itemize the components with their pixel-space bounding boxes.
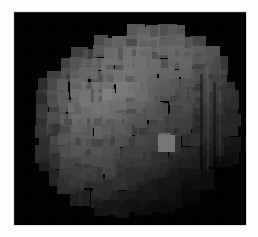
mosaic-block <box>191 178 206 190</box>
mosaic-block <box>79 177 93 188</box>
bright-spot-block <box>158 135 175 152</box>
mosaic-block <box>215 156 233 167</box>
pixel-mosaic-canvas <box>14 12 246 225</box>
mosaic-block <box>181 191 200 205</box>
mosaic-block <box>79 190 90 206</box>
figure-caption <box>14 226 246 236</box>
image-plate <box>14 12 246 225</box>
mosaic-block <box>160 201 175 213</box>
figure-root <box>0 0 258 237</box>
mosaic-block <box>201 155 214 167</box>
